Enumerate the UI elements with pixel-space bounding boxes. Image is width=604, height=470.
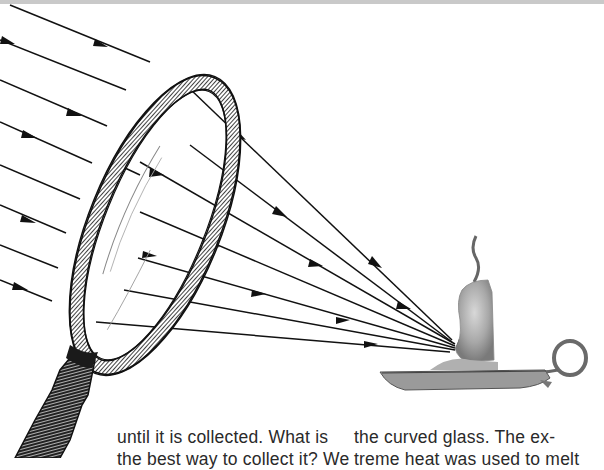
refracted-ray-arrows	[142, 128, 472, 349]
body-text-left-column: until it is collected. What is the best …	[117, 426, 339, 470]
text-line: the best way to collect it? We	[117, 448, 339, 470]
body-text-right-column: the curved glass. The ex- treme heat was…	[354, 426, 604, 470]
magnifying-glass-handle	[15, 345, 98, 458]
text-line: the curved glass. The ex-	[354, 426, 604, 448]
text-line: treme heat was used to melt	[354, 448, 604, 470]
candle	[430, 236, 498, 370]
text-line: until it is collected. What is	[117, 426, 339, 448]
